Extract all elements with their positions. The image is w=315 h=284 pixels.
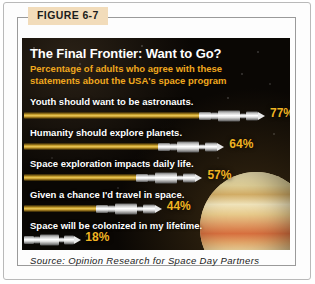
rocket-segment [211,112,218,119]
rocket-segment [64,235,74,244]
rocket-body [96,203,162,214]
bar-value-label: 57% [207,168,231,183]
rocket-segment [246,111,258,120]
rocket-segment [115,203,137,214]
rocket-segment [148,174,155,181]
rocket-body [199,110,265,121]
bar-value-label: 64% [229,137,253,152]
rocket-exhaust-trail [24,205,96,212]
bar-row: Space exploration impacts daily life.57% [22,158,290,189]
rocket-nose-cone [217,143,224,151]
rocket-segment [170,143,177,150]
bar-value-label: 18% [85,230,109,245]
rocket-nose-cone [195,174,202,182]
chart-headline: The Final Frontier: Want to Go? [30,46,221,61]
rocket-body [24,234,80,245]
rocket-segment [158,143,170,151]
rocket-segment [199,112,211,120]
rocket-segment [136,174,148,182]
rocket-segment [218,110,240,121]
bar-value-label: 44% [167,199,191,214]
rocket-nose-cone [74,236,81,244]
bar-row: Youth should want to be astronauts.77% [22,96,290,127]
rocket-segment [108,205,115,212]
bar-row: Humanity should explore planets.64% [22,127,290,158]
bar-row-label: Humanity should explore planets. [30,127,182,139]
rocket-segment [177,141,199,152]
figure-number-tag: FIGURE 6-7 [28,7,108,25]
rocket-exhaust-trail [24,174,136,181]
rocket-segment [40,234,59,245]
rocket-bar [24,110,265,121]
source-note: Source: Opinion Research for Space Day P… [30,255,259,267]
rocket-body [136,172,202,183]
rocket-segment [24,236,34,244]
rocket-bar [24,234,80,245]
rocket-segment [143,204,155,213]
bar-row: Space will be colonized in my lifetime.1… [22,220,290,250]
bar-row-label: Space will be colonized in my lifetime. [30,220,202,232]
bar-value-label: 77% [270,106,290,121]
chart-subhead: Percentage of adults who agree with thes… [30,63,230,86]
rocket-exhaust-trail [24,143,158,150]
rocket-bar [24,172,202,183]
figure-root: FIGURE 6-7 The Final Frontier: Want to G… [0,0,315,284]
space-chart-panel: The Final Frontier: Want to Go? Percenta… [22,38,290,250]
rocket-segment [205,142,217,151]
rocket-nose-cone [155,205,162,213]
bar-row-label: Youth should want to be astronauts. [30,96,193,108]
rocket-bar [24,141,224,152]
figure-frame-left-rule [17,17,18,265]
bar-rows-container: Youth should want to be astronauts.77%Hu… [22,96,290,250]
rocket-nose-cone [258,112,265,120]
rocket-segment [96,205,108,213]
rocket-exhaust-trail [24,112,199,119]
figure-frame-right-rule [295,17,296,265]
rocket-bar [24,203,162,214]
bar-row-label: Given a chance I'd travel in space. [30,189,184,201]
bar-row-label: Space exploration impacts daily life. [30,158,194,170]
bar-row: Given a chance I'd travel in space.44% [22,189,290,220]
rocket-body [158,141,224,152]
rocket-segment [183,173,195,182]
rocket-segment [155,172,177,183]
